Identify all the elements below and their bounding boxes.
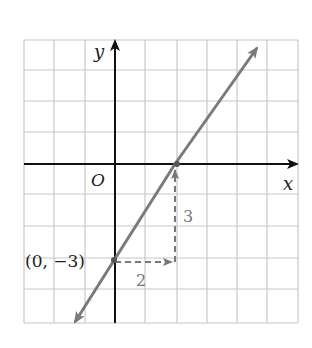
y-intercept-point <box>111 257 117 263</box>
y-axis-label: y <box>93 41 105 62</box>
origin-label: O <box>91 170 105 190</box>
coordinate-graph: y x O (0, −3) 2 3 <box>0 0 312 348</box>
x-intercept-point <box>174 161 180 167</box>
grid <box>24 40 298 323</box>
rise-label: 3 <box>183 207 193 226</box>
graphed-line <box>175 48 257 164</box>
graphed-line-lower <box>75 164 175 322</box>
run-label: 2 <box>136 271 146 290</box>
intercept-label: (0, −3) <box>25 251 85 271</box>
x-axis-label: x <box>283 173 293 194</box>
